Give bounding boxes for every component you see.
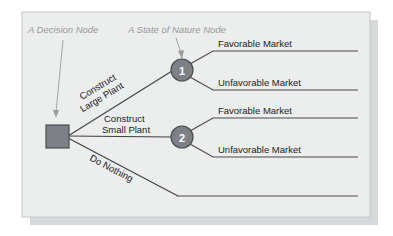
branch-label-construct-small-plant: Construct Small Plant	[102, 113, 150, 135]
state-node-1-label: 1	[179, 65, 185, 77]
branch-label-line1: Construct	[104, 113, 145, 124]
decision-node-square[interactable]	[46, 125, 69, 148]
state-node-2[interactable]: 2	[171, 126, 193, 148]
branch-label-line2: Small Plant	[102, 124, 150, 135]
diagram-canvas: A Decision Node A State of Nature Node 1…	[0, 0, 393, 236]
diagram-panel	[22, 12, 370, 217]
state-node-1[interactable]: 1	[171, 59, 193, 81]
outcome-label-node1-unfavorable: Unfavorable Market	[218, 77, 301, 88]
decision-node-callout-label: A Decision Node	[27, 24, 98, 35]
outcome-label-node1-favorable: Favorable Market	[218, 38, 292, 49]
outcome-label-node2-unfavorable: Unfavorable Market	[218, 144, 301, 155]
outcome-label-node2-favorable: Favorable Market	[218, 105, 292, 116]
state-node-2-label: 2	[179, 132, 185, 144]
state-of-nature-callout-label: A State of Nature Node	[127, 24, 226, 35]
decision-tree-svg: A Decision Node A State of Nature Node 1…	[0, 0, 393, 236]
